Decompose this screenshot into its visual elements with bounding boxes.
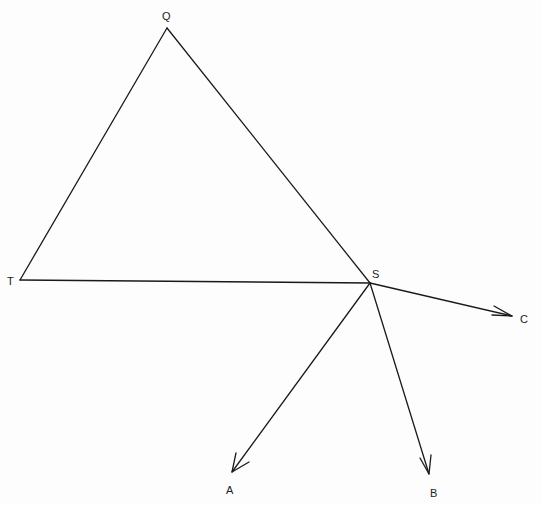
vector-s-b-shaft: [370, 283, 429, 474]
label-c: C: [520, 313, 528, 325]
vector-s-b: [370, 283, 431, 474]
vector-s-a-shaft: [232, 283, 370, 472]
triangle-vector-diagram: Q T S C A B: [0, 0, 541, 505]
vector-s-c: [370, 283, 512, 316]
diagram-canvas: Q T S C A B: [0, 0, 541, 505]
edge-q-s: [167, 28, 370, 283]
edge-q-t: [20, 28, 167, 280]
label-a: A: [226, 484, 234, 496]
vector-s-a: [232, 283, 370, 472]
label-q: Q: [162, 10, 171, 22]
label-b: B: [430, 487, 437, 499]
vector-s-c-shaft: [370, 283, 512, 316]
label-s: S: [372, 268, 379, 280]
edge-t-s: [20, 280, 370, 283]
arrowhead-c-icon: [492, 306, 512, 316]
label-t: T: [7, 275, 14, 287]
